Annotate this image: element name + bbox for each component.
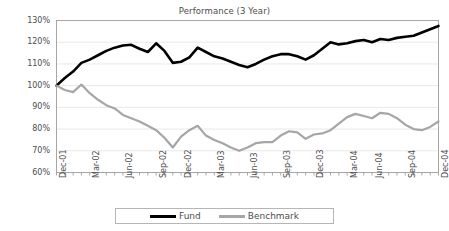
x-axis-tick-label: Dec-02: [185, 149, 193, 178]
x-axis-tick-label: Mar-04: [351, 150, 359, 178]
y-axis-tick-label: 80%: [8, 125, 50, 133]
chart-legend: FundBenchmark: [115, 208, 334, 224]
y-axis-tick-label: 100%: [8, 82, 50, 90]
legend-label: Fund: [179, 211, 201, 221]
x-axis-tick-label: Sep-02: [160, 149, 168, 177]
x-axis-tick-label: Sep-04: [409, 149, 417, 177]
x-axis-tick-label: Dec-04: [442, 149, 449, 178]
x-axis-tick-label: Dec-03: [317, 149, 325, 178]
y-axis-tick-label: 70%: [8, 147, 50, 155]
chart-plot-area: [0, 0, 449, 231]
legend-entry-fund: Fund: [150, 211, 201, 221]
data-series-group: [57, 26, 439, 151]
plot-frame: [57, 21, 439, 173]
y-axis-tick-label: 130%: [8, 17, 50, 25]
y-axis-tick-label: 90%: [8, 103, 50, 111]
x-axis-tick-label: Mar-03: [218, 150, 226, 178]
legend-label: Benchmark: [248, 211, 299, 221]
performance-chart: Performance (3 Year) 130%120%110%100%90%…: [0, 0, 449, 231]
legend-entry-benchmark: Benchmark: [219, 211, 299, 221]
y-axis-tick-label: 60%: [8, 169, 50, 177]
y-axis-tick-label: 110%: [8, 60, 50, 68]
series-line-fund: [57, 26, 439, 86]
y-axis-tick-label: 120%: [8, 38, 50, 46]
x-axis-tick-label: Dec-01: [60, 149, 68, 178]
gridlines-group: [57, 21, 439, 173]
x-axis-tick-label: Jun-03: [251, 152, 259, 178]
series-line-benchmark: [57, 85, 439, 151]
legend-line-swatch: [219, 215, 245, 218]
x-axis-tick-label: Jun-02: [126, 152, 134, 178]
x-axis-tick-label: Mar-02: [93, 150, 101, 178]
x-axis-tick-label: Sep-03: [284, 149, 292, 177]
legend-line-swatch: [150, 215, 176, 218]
x-axis-tick-label: Jun-04: [376, 152, 384, 178]
